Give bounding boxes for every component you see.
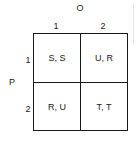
row-strategy-2-label: 2 (24, 104, 32, 114)
row-strategy-1-label: 1 (24, 55, 32, 65)
payoff-cell-2-1: R, U (34, 83, 81, 130)
payoff-grid: S, S U, R R, U T, T (33, 33, 128, 131)
column-strategy-2-label: 2 (97, 21, 109, 31)
payoff-cell-1-2: U, R (81, 34, 127, 83)
column-player-label: O (74, 3, 86, 13)
column-strategy-1-label: 1 (50, 21, 62, 31)
payoff-cell-1-1: S, S (34, 34, 81, 83)
scan-artifact-line (133, 4, 134, 44)
row-player-label: P (7, 77, 17, 87)
payoff-cell-2-2: T, T (81, 83, 127, 130)
